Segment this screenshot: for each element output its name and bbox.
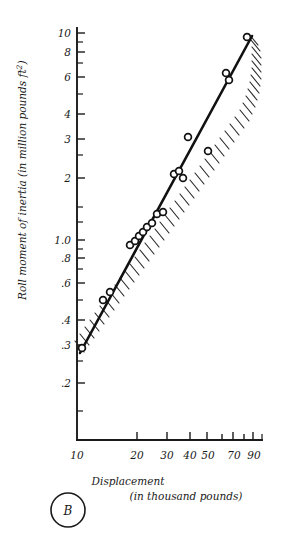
y-axis-title-close: )	[16, 60, 28, 65]
data-points	[79, 34, 251, 352]
y-tick-label: .3	[61, 339, 71, 351]
y-tick-label: 6	[64, 71, 71, 83]
y-tick-label: .6	[61, 277, 71, 289]
svg-text:Roll moment of inertia (in mil: Roll moment of inertia (in million pound…	[15, 60, 28, 301]
data-point	[176, 168, 183, 175]
figure-panel-b: 10 8 6 4 3 2 1.0 .8 .6 .4 .3 .2 1	[0, 0, 284, 537]
x-tick-label: 50	[201, 449, 215, 461]
x-axis-title-text: Displacement	[91, 475, 166, 487]
y-tick-label: 4	[63, 108, 71, 120]
y-tick-label: 2	[63, 172, 71, 184]
y-tick-label: .8	[61, 252, 71, 264]
x-tick-label: 90	[247, 449, 261, 461]
chart-canvas: 10 8 6 4 3 2 1.0 .8 .6 .4 .3 .2 1	[0, 0, 284, 537]
data-point	[149, 220, 156, 227]
y-axis-title: Roll moment of inertia (in million pound…	[15, 60, 28, 301]
y-axis-title-text: Roll moment of inertia (in million pound…	[16, 69, 28, 301]
y-tick-label: 1.0	[54, 234, 71, 246]
y-tick-label: 10	[58, 27, 72, 39]
x-axis-title-units: (in thousand pounds)	[130, 490, 243, 502]
data-point	[244, 34, 251, 41]
x-tick-label: 10	[70, 449, 84, 461]
x-axis-title: Displacement (in thousand pounds)	[91, 475, 243, 502]
data-point	[79, 345, 86, 352]
data-point	[100, 297, 107, 304]
data-point	[180, 175, 187, 182]
y-tick-label: 8	[64, 46, 71, 58]
panel-letter-badge: B	[51, 493, 85, 527]
data-point	[160, 209, 167, 216]
x-tick-label: 20	[129, 449, 144, 461]
y-axis-ticks	[77, 33, 85, 411]
regression-fit-line	[80, 36, 252, 353]
data-point	[205, 148, 212, 155]
y-tick-label: .2	[61, 377, 71, 389]
x-axis-tick-labels: 10 20 30 40 50 70 90	[70, 449, 261, 461]
y-axis-tick-labels: 10 8 6 4 3 2 1.0 .8 .6 .4 .3 .2	[54, 27, 71, 389]
x-tick-label: 70	[227, 449, 241, 461]
x-tick-label: 30	[160, 449, 174, 461]
y-tick-label: .4	[61, 314, 71, 326]
panel-letter-text: B	[63, 504, 73, 518]
data-point	[185, 134, 192, 141]
data-point	[226, 77, 233, 84]
x-axis-ticks	[137, 432, 262, 440]
data-point	[223, 70, 230, 77]
axis-lines	[77, 28, 262, 440]
y-tick-label: 3	[64, 133, 71, 145]
data-point	[107, 289, 114, 296]
x-tick-label: 40	[182, 449, 197, 461]
